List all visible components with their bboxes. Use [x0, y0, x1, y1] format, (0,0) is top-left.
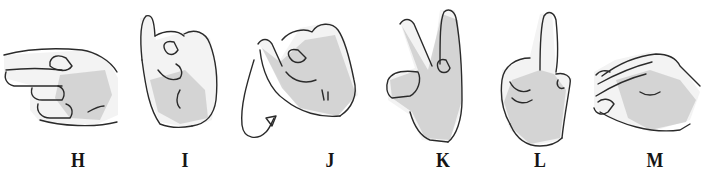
motion-arrow-icon [242, 60, 274, 137]
hand-sign-i-icon [140, 16, 218, 128]
hand-sign-l-icon [500, 12, 572, 146]
arrowhead-icon [266, 116, 276, 126]
letter-label-l: L [527, 148, 553, 173]
letter-label-k: K [430, 148, 456, 173]
hand-illustrations [0, 0, 712, 187]
hand-sign-m-icon [594, 52, 700, 132]
hand-sign-k-icon [387, 10, 462, 142]
letter-label-j: J [317, 148, 343, 173]
cut-off-caption-text [40, 181, 240, 187]
letter-label-m: M [642, 148, 668, 173]
hand-sign-h-icon [4, 49, 118, 126]
hand-sign-j-icon [258, 22, 358, 118]
sign-alphabet-figure: H I J K L M [0, 0, 712, 187]
letter-label-h: H [65, 148, 91, 173]
letter-label-i: I [172, 148, 198, 173]
